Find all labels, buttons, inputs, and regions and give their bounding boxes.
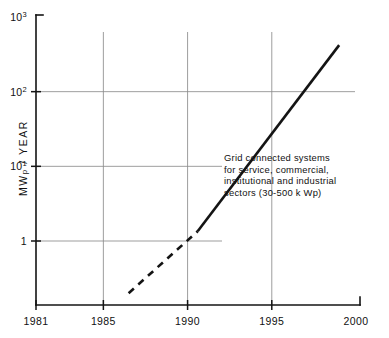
x-tick-label-1990: 1990 <box>175 315 200 327</box>
chart-figure: MWp / YEAR 19811985199019952000 11011021… <box>0 0 389 338</box>
y-tick-label-1000: 103 <box>0 11 27 23</box>
y-tick-label-100: 102 <box>0 86 27 98</box>
x-tick-label-1981: 1981 <box>24 315 49 327</box>
grid-connected-systems-note: Grid connected systemsfor service, comme… <box>224 152 384 198</box>
x-tick-label-1995: 1995 <box>259 315 284 327</box>
y-tick-exponent: 3 <box>23 10 27 19</box>
y-tick-label-10: 101 <box>0 160 27 172</box>
annotation-line-2: for service, commercial, <box>224 164 384 176</box>
annotation-line-1: Grid connected systems <box>224 152 384 164</box>
x-tick-label-2000: 2000 <box>344 315 369 327</box>
data-series-solid <box>198 45 339 231</box>
y-axis-title-main: MW <box>17 174 29 196</box>
y-tick-label-1: 1 <box>0 235 27 247</box>
y-tick-exponent: 2 <box>23 84 27 93</box>
annotation-line-3: institutional and industrial <box>224 175 384 187</box>
annotation-line-4: sectors (30-500 k Wp) <box>224 187 384 199</box>
y-tick-exponent: 1 <box>23 159 27 168</box>
tick-marks-group <box>31 92 272 310</box>
x-tick-label-1985: 1985 <box>91 315 116 327</box>
